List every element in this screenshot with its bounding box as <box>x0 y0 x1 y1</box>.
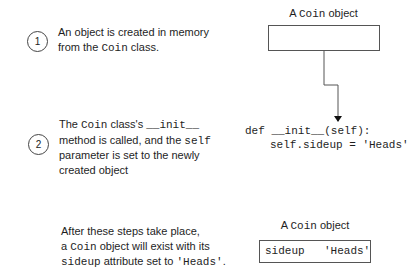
result-description: After these steps take place, a Coin obj… <box>61 224 261 270</box>
init-code-line-2: self.sideup = 'Heads' <box>270 138 409 152</box>
class-name-code: Coin <box>101 42 127 54</box>
step-1-description: An object is created in memory from the … <box>58 25 218 55</box>
attribute-name: sideup <box>265 244 305 258</box>
step-1-line-1: An object is created in memory <box>58 25 218 40</box>
result-line-2: a Coin object will exist with its <box>61 239 261 255</box>
self-param-code: self <box>184 135 210 147</box>
init-code-line-1: def __init__(self): <box>245 124 370 138</box>
result-line-1: After these steps take place, <box>61 224 261 239</box>
step-2-badge: 2 <box>28 134 49 155</box>
step-2-description: The Coin class's __init__ method is call… <box>59 117 219 177</box>
top-object-box <box>268 25 380 51</box>
top-object-title: A Coin object <box>268 7 379 20</box>
step-1-line-2: from the Coin class. <box>58 40 218 56</box>
step-2-line-3: parameter is set to the newly <box>59 148 219 163</box>
bottom-object-title: A Coin object <box>259 219 371 232</box>
step-2-line-1: The Coin class's __init__ <box>59 117 219 133</box>
result-line-3: sideup attribute set to 'Heads'. <box>61 254 261 270</box>
step-2-line-2: method is called, and the self <box>59 133 219 149</box>
step-2-line-4: created object <box>59 163 219 178</box>
init-call-connector <box>324 50 338 121</box>
init-method-code: __init__ <box>146 119 199 131</box>
attribute-value: 'Heads' <box>324 244 370 258</box>
step-1-badge: 1 <box>27 31 48 52</box>
